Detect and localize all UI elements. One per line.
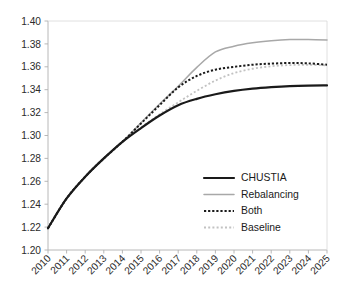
x-tick-label: 2022 (252, 252, 276, 276)
x-tick-label: 2010 (29, 252, 53, 276)
x-tick-label: 2023 (271, 252, 295, 276)
x-tick-label: 2011 (48, 252, 72, 276)
y-tick-label: 1.20 (21, 245, 41, 256)
y-tick-label: 1.32 (21, 107, 41, 118)
chart-container: 1.201.221.241.261.281.301.321.341.361.38… (0, 0, 351, 298)
x-tick-label: 2015 (122, 252, 146, 276)
x-tick-label: 2021 (234, 252, 258, 276)
y-tick-label: 1.24 (21, 199, 41, 210)
x-tick-label: 2012 (66, 252, 90, 276)
y-tick-label: 1.22 (21, 222, 41, 233)
x-tick-label: 2018 (178, 252, 202, 276)
y-tick-label: 1.34 (21, 84, 41, 95)
x-tick-label: 2024 (290, 252, 314, 276)
x-tick-label: 2013 (85, 252, 109, 276)
y-axis-ticks: 1.201.221.241.261.281.301.321.341.361.38… (21, 16, 48, 256)
plot-background (48, 21, 327, 250)
legend-label-rebalancing: Rebalancing (241, 189, 299, 200)
y-tick-label: 1.30 (21, 130, 41, 141)
y-tick-label: 1.36 (21, 61, 41, 72)
x-tick-label: 2020 (215, 252, 239, 276)
x-tick-label: 2025 (308, 252, 332, 276)
y-tick-label: 1.26 (21, 176, 41, 187)
y-tick-label: 1.38 (21, 39, 41, 50)
legend-label-both: Both (241, 205, 263, 216)
x-axis-ticks: 2010201120122013201420152016201720182019… (29, 250, 332, 276)
y-tick-label: 1.40 (21, 16, 41, 27)
y-tick-label: 1.28 (21, 153, 41, 164)
legend-label-chustia: CHUSTIA (241, 172, 287, 183)
line-chart: 1.201.221.241.261.281.301.321.341.361.38… (0, 0, 351, 298)
x-tick-label: 2014 (104, 252, 128, 276)
x-tick-label: 2017 (159, 252, 183, 276)
legend-label-baseline: Baseline (241, 222, 281, 233)
x-tick-label: 2016 (141, 252, 165, 276)
x-tick-label: 2019 (197, 252, 221, 276)
